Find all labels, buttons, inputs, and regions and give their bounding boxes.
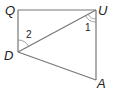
angle-2-arc bbox=[18, 40, 29, 46]
quadrilateral-diagram: Q U D A 2 1 bbox=[0, 0, 114, 92]
edge-DA bbox=[18, 52, 96, 80]
angle-label-2: 2 bbox=[26, 29, 32, 40]
angle-1-arc-inner bbox=[88, 14, 96, 19]
vertex-label-D: D bbox=[4, 48, 13, 63]
vertex-label-A: A bbox=[96, 76, 106, 91]
vertex-label-Q: Q bbox=[5, 3, 15, 18]
vertex-label-U: U bbox=[98, 3, 108, 18]
angle-label-1: 1 bbox=[85, 22, 91, 33]
